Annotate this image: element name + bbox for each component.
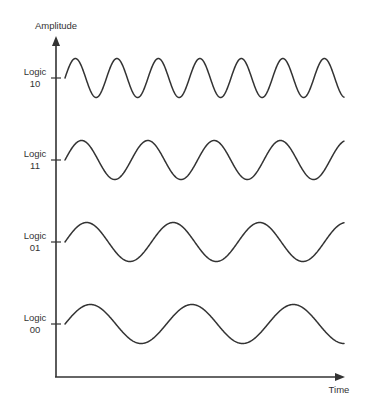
signal-label-word: Logic (24, 230, 47, 241)
y-axis-label: Amplitude (35, 20, 77, 31)
waveform (65, 59, 344, 98)
fsk-waveform-diagram: Amplitude Time Logic 10 Logic 11 Logic 0… (0, 0, 370, 409)
x-axis: Time (55, 373, 349, 395)
waveform (65, 305, 344, 344)
x-axis-label: Time (329, 384, 350, 395)
signal-label-value: 11 (30, 160, 40, 171)
signal-logic-11: Logic 11 (24, 141, 344, 180)
signal-label-value: 00 (30, 324, 41, 335)
signal-label-value: 10 (30, 78, 41, 89)
signal-logic-01: Logic 01 (24, 223, 344, 262)
signal-label-word: Logic (24, 148, 47, 159)
signal-label-word: Logic (24, 66, 47, 77)
signal-label-value: 01 (30, 242, 41, 253)
signal-logic-00: Logic 00 (24, 305, 344, 344)
signal-label-word: Logic (24, 312, 47, 323)
waveform (65, 141, 344, 180)
waveform (65, 223, 344, 262)
x-axis-arrow-icon (335, 373, 345, 381)
signal-logic-10: Logic 10 (24, 59, 344, 98)
y-axis-arrow-icon (52, 36, 60, 46)
